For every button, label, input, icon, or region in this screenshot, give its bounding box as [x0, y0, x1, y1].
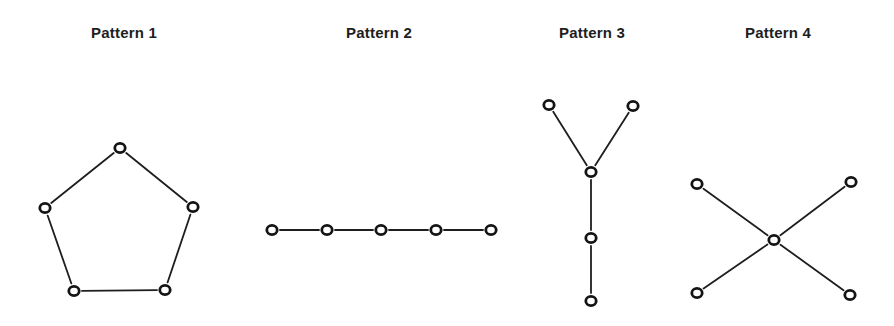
node-circle — [160, 285, 170, 294]
node-circle — [267, 225, 277, 234]
node-circle — [846, 177, 856, 186]
edge-line — [780, 187, 844, 235]
node-circle — [69, 286, 79, 295]
edge-line — [126, 153, 187, 202]
edge-line — [82, 290, 157, 291]
node-circle — [586, 233, 596, 242]
edge-line — [168, 215, 191, 283]
node-circle — [586, 296, 596, 305]
pattern-1-graph — [40, 143, 198, 295]
node-circle — [769, 235, 779, 244]
edge-line — [51, 153, 114, 203]
node-circle — [586, 167, 596, 176]
pattern-3-graph — [544, 100, 638, 305]
node-circle — [431, 225, 441, 234]
node-circle — [692, 179, 702, 188]
node-circle — [188, 202, 198, 211]
node-circle — [628, 101, 638, 110]
edge-line — [704, 245, 768, 289]
node-circle — [322, 225, 332, 234]
node-circle — [376, 225, 386, 234]
node-circle — [692, 288, 702, 297]
edge-line — [48, 216, 72, 284]
node-circle — [115, 143, 125, 152]
edge-line — [703, 189, 767, 236]
node-circle — [544, 100, 554, 109]
node-circle — [40, 203, 50, 212]
edge-line — [595, 113, 628, 166]
pattern-2-graph — [267, 225, 496, 234]
node-circle — [845, 290, 855, 299]
pattern-4-graph — [692, 177, 856, 299]
node-circle — [486, 225, 496, 234]
edge-line — [553, 112, 587, 165]
edge-line — [780, 245, 843, 291]
patterns-diagram — [0, 0, 894, 326]
